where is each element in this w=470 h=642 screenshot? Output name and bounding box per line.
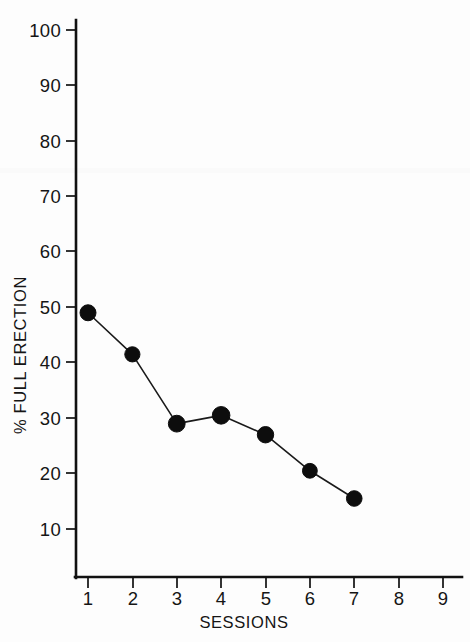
x-tick-label-4: 4 [216,588,227,609]
data-point-5 [257,427,273,443]
line-chart: 100 90 80 70 60 50 40 30 20 10 1 2 3 4 5… [0,0,470,642]
scan-artifact-band [0,168,470,173]
x-tick-label-1: 1 [83,588,94,609]
data-point-2 [125,347,140,362]
y-tick-label-30: 30 [40,408,61,429]
y-tick-label-20: 20 [40,463,61,484]
data-point-3 [168,415,185,432]
x-tick-label-5: 5 [261,588,272,609]
y-tick-label-90: 90 [40,75,61,96]
x-tick-label-9: 9 [438,588,449,609]
y-tick-label-40: 40 [40,352,61,373]
x-axis-title: SESSIONS [199,613,288,631]
x-tick-label-3: 3 [172,588,183,609]
x-tick-label-7: 7 [349,588,360,609]
x-tick-label-8: 8 [394,588,405,609]
figure-root: 100 90 80 70 60 50 40 30 20 10 1 2 3 4 5… [0,0,470,642]
x-tick-label-6: 6 [305,588,316,609]
x-tick-label-2: 2 [128,588,139,609]
chart-background [0,0,470,642]
y-tick-label-70: 70 [40,186,61,207]
data-point-1 [80,305,96,321]
y-tick-label-60: 60 [40,241,61,262]
y-tick-label-50: 50 [40,297,61,318]
y-tick-label-80: 80 [40,131,61,152]
data-point-7 [346,491,362,507]
data-point-4 [212,407,230,425]
data-point-6 [302,463,317,478]
y-tick-label-10: 10 [40,519,61,540]
y-tick-label-100: 100 [29,20,61,41]
y-axis-title: % FULL ERECTION [11,276,29,434]
